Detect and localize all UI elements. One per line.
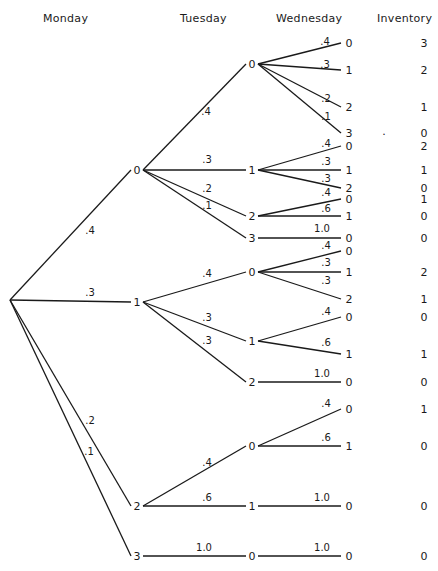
tuesday-node-label: 0	[249, 59, 256, 70]
edge-probability: .4	[321, 307, 331, 317]
monday-node-label: 3	[134, 551, 141, 562]
tuesday-node-label: 0	[249, 551, 256, 562]
tuesday-node-label: 3	[249, 233, 256, 244]
tuesday-node-label: 1	[249, 165, 256, 176]
tuesday-node-label: 2	[249, 377, 256, 388]
tuesday-node-label: 0	[249, 267, 256, 278]
edge-probability: .4	[201, 107, 211, 117]
tuesday-node-label: 0	[249, 441, 256, 452]
edge-probability: .4	[202, 458, 212, 468]
edge-probability: .3	[202, 313, 212, 323]
tuesday-node-label: 2	[249, 211, 256, 222]
edge-monday-to-tuesday	[143, 64, 246, 170]
inventory-value: 0	[421, 233, 428, 244]
edge-probability: .6	[321, 338, 331, 348]
inventory-value: 3	[421, 38, 428, 49]
wednesday-leaf-label: 0	[346, 141, 353, 152]
edge-probability: .4	[321, 188, 331, 198]
edge-probability: .3	[202, 336, 212, 346]
tuesday-node-label: 1	[249, 501, 256, 512]
wednesday-leaf-label: 1	[346, 349, 353, 360]
wednesday-leaf-label: 0	[346, 194, 353, 205]
inventory-value: 1	[421, 194, 428, 205]
inventory-value: 1	[421, 294, 428, 305]
inventory-value: 0	[421, 501, 428, 512]
wednesday-leaf-label: 0	[346, 312, 353, 323]
wednesday-leaf-label: 3	[346, 128, 353, 139]
edge-probability: .3	[85, 288, 95, 298]
edge-probability: 1.0	[314, 224, 330, 234]
edge-probability: .2	[321, 94, 331, 104]
edge-probability: .6	[321, 204, 331, 214]
edge-probability: .2	[85, 416, 95, 426]
edge-probability: 1.0	[314, 493, 330, 503]
edge-probability: .4	[321, 139, 331, 149]
wednesday-leaf-label: 1	[346, 267, 353, 278]
wednesday-leaf-label: 0	[346, 233, 353, 244]
wednesday-leaf-label: 1	[346, 211, 353, 222]
edge-probability: 1.0	[314, 369, 330, 379]
inventory-value: 2	[421, 141, 428, 152]
edge-probability: .4	[85, 226, 95, 236]
wednesday-leaf-label: 2	[346, 102, 353, 113]
inventory-value: 1	[421, 102, 428, 113]
edge-probability: .4	[321, 241, 331, 251]
inventory-value: 1	[421, 404, 428, 415]
edge-monday-to-tuesday	[143, 272, 246, 302]
edge-probability: 1.0	[314, 543, 330, 553]
edge-monday-to-tuesday	[143, 302, 246, 341]
stray-mark: .	[382, 126, 386, 137]
edge-root-to-monday	[10, 300, 131, 302]
edge-probability: .3	[321, 276, 331, 286]
edge-probability: .4	[202, 269, 212, 279]
wednesday-leaf-label: 0	[346, 501, 353, 512]
inventory-value: 1	[421, 349, 428, 360]
edge-probability: .1	[321, 112, 331, 122]
wednesday-leaf-label: 1	[346, 441, 353, 452]
wednesday-leaf-label: 0	[346, 377, 353, 388]
inventory-value: 0	[421, 377, 428, 388]
edge-probability: .4	[320, 37, 330, 47]
edge-probability: .3	[202, 155, 212, 165]
inventory-value: 0	[421, 312, 428, 323]
wednesday-leaf-label: 1	[346, 65, 353, 76]
edge-probability: .4	[321, 399, 331, 409]
wednesday-leaf-label: 2	[346, 294, 353, 305]
edge-probability: .6	[321, 433, 331, 443]
edge-probability: .3	[321, 174, 331, 184]
inventory-value: 0	[421, 211, 428, 222]
inventory-value: 2	[421, 267, 428, 278]
edge-monday-to-tuesday	[143, 170, 246, 238]
edge-monday-to-tuesday	[143, 170, 246, 216]
edge-probability: .3	[321, 258, 331, 268]
inventory-value: 1	[421, 165, 428, 176]
edge-probability: .1	[84, 447, 94, 457]
inventory-value: 0	[421, 441, 428, 452]
edge-probability: .6	[202, 493, 212, 503]
edge-probability: 1.0	[196, 543, 212, 553]
edge-probability: .3	[320, 60, 330, 70]
edge-root-to-monday	[10, 300, 131, 506]
inventory-value: 0	[421, 128, 428, 139]
edge-root-to-monday	[10, 170, 131, 300]
edge-root-to-monday	[10, 300, 131, 556]
wednesday-leaf-label: 0	[346, 551, 353, 562]
edge-probability: .3	[321, 157, 331, 167]
tree-edges	[0, 0, 438, 571]
edge-probability: .1	[202, 201, 212, 211]
edge-monday-to-tuesday	[143, 302, 246, 382]
wednesday-leaf-label: 0	[346, 404, 353, 415]
monday-node-label: 1	[134, 297, 141, 308]
wednesday-leaf-label: 0	[346, 246, 353, 257]
wednesday-leaf-label: 0	[346, 38, 353, 49]
edge-monday-to-tuesday	[143, 446, 246, 506]
monday-node-label: 2	[134, 501, 141, 512]
edge-probability: .2	[202, 184, 212, 194]
wednesday-leaf-label: 1	[346, 165, 353, 176]
tuesday-node-label: 1	[249, 336, 256, 347]
monday-node-label: 0	[134, 165, 141, 176]
inventory-value: 2	[421, 65, 428, 76]
inventory-value: 0	[421, 551, 428, 562]
